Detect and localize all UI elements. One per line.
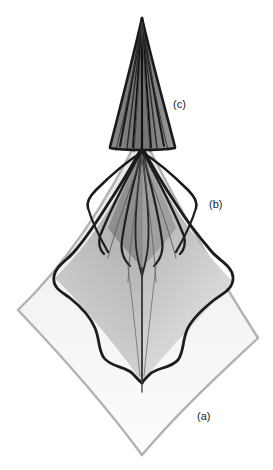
label-inner-surface-c: (c) bbox=[173, 98, 186, 110]
figure-container: (c) (b) (a) bbox=[0, 0, 273, 470]
label-middle-surface-b: (b) bbox=[209, 198, 222, 210]
nested-surfaces-diagram bbox=[0, 0, 273, 470]
label-outer-surface-a: (a) bbox=[197, 410, 210, 422]
